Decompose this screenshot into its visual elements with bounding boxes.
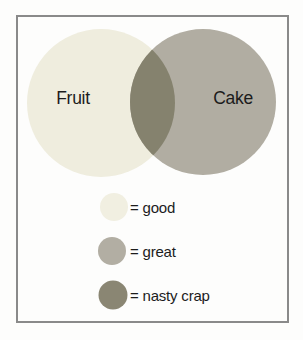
cake-set-label: Cake <box>205 89 261 107</box>
page: Fruit Cake = good = great = nasty crap <box>0 0 303 340</box>
legend-swatch-good <box>100 193 128 221</box>
legend-label-great: = great <box>130 242 176 261</box>
legend-label-nasty-crap: = nasty crap <box>130 286 210 305</box>
legend-swatch-nasty-crap <box>99 281 128 310</box>
legend-label-good: = good <box>130 198 175 217</box>
fruit-set-label: Fruit <box>45 89 101 107</box>
legend-swatch-great <box>98 237 126 265</box>
